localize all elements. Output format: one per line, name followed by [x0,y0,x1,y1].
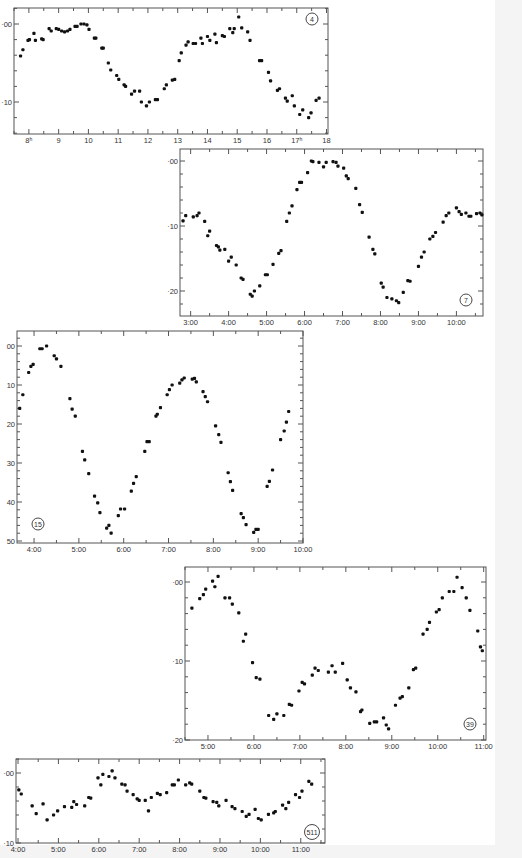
data-point [233,807,236,810]
data-point [165,83,168,86]
data-point [194,42,197,45]
x-tick-label: 10:00 [294,545,313,554]
data-point [46,818,49,821]
x-tick-label: 17ʰ [291,136,302,145]
data-point [417,265,420,268]
star-id-badge: 4 [310,16,314,23]
data-point [219,441,222,444]
chart-panel-39: 5:006:007:008:009:0010:0011:00·00·10·203… [172,567,493,751]
data-point [435,610,438,613]
x-tick-label: 6:00 [91,845,106,854]
y-tick-label: ·20 [172,736,183,745]
y-tick-label: 00 [7,342,15,351]
data-points [18,344,290,534]
data-point [87,28,90,31]
data-point [123,783,126,786]
data-point [202,593,205,596]
data-point [119,507,122,510]
data-point [279,438,282,441]
data-point [168,388,171,391]
data-point [83,804,86,807]
data-point [79,22,82,25]
data-point [294,793,297,796]
data-point [111,769,114,772]
x-tick-label: 11:00 [475,742,493,751]
data-point [206,400,209,403]
data-point [408,280,411,283]
data-point [360,708,363,711]
data-point [135,475,138,478]
data-point [287,410,290,413]
data-point [110,532,113,535]
data-point [426,628,429,631]
data-point [285,420,288,423]
data-point [143,450,146,453]
data-point [251,295,254,298]
data-point [213,33,216,36]
x-tick-label: 5:00 [201,742,216,751]
data-point [268,480,271,483]
x-tick-label: 5:00 [259,318,274,327]
data-point [382,716,385,719]
data-point [258,284,261,287]
data-point [420,256,423,259]
data-point [283,429,286,432]
data-point [469,215,472,218]
data-point [322,165,325,168]
data-point [460,213,463,216]
data-point [290,704,293,707]
data-point [371,248,374,251]
data-point [214,424,217,427]
data-point [204,588,207,591]
chart-panel-4: 8ʰ91011121314151617ʰ18·00·104 [1,8,331,145]
data-point [387,727,390,730]
plot-frame [180,149,483,316]
figure-canvas: 8ʰ91011121314151617ʰ18·00·1043:004:005:0… [0,0,522,858]
y-tick-label: ·10 [3,839,14,848]
data-point [68,397,71,400]
data-point [206,234,209,237]
y-tick-label: ·10 [167,222,178,231]
data-point [45,344,48,347]
data-point [198,597,201,600]
data-point [255,676,258,679]
plot-frame [185,567,486,740]
data-point [227,260,230,263]
data-point [442,221,445,224]
data-point [125,790,128,793]
data-point [83,458,86,461]
data-point [130,489,133,492]
y-tick-label: ·00 [172,578,183,587]
data-point [441,596,444,599]
data-point [245,815,248,818]
data-point [373,252,376,255]
data-point [204,395,207,398]
data-point [229,480,232,483]
data-point [102,47,105,50]
page-edge-shade [495,0,522,858]
data-point [163,87,166,90]
data-point [277,252,280,255]
data-point [257,817,260,820]
data-point [237,611,240,614]
data-point [117,514,120,517]
data-point [99,783,102,786]
data-point [204,797,207,800]
data-point [281,804,284,807]
data-point [241,278,244,281]
data-point [190,606,193,609]
data-point [184,214,187,217]
data-point [290,204,293,207]
data-point [288,211,291,214]
data-point [271,468,274,471]
data-point [251,661,254,664]
data-point [117,78,120,81]
data-point [113,776,116,779]
data-point [231,31,234,34]
x-tick-label: 6:00 [247,742,262,751]
data-point [87,472,90,475]
data-point [258,678,261,681]
x-tick-label: 7:00 [293,742,308,751]
data-point [325,161,328,164]
data-point [94,36,97,39]
